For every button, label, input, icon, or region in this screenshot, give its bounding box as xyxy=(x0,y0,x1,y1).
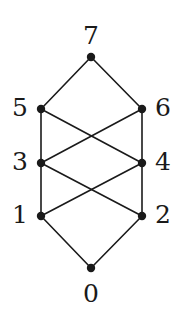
graph-node-5 xyxy=(37,105,45,113)
diagram-canvas: 01234567 xyxy=(0,0,181,314)
edge-layer xyxy=(41,57,142,268)
graph-node-label-5: 5 xyxy=(12,93,28,122)
graph-node-label-1: 1 xyxy=(12,200,28,229)
graph-node-4 xyxy=(138,159,146,167)
hasse-diagram-figure: 01234567 xyxy=(0,0,181,314)
graph-node-0 xyxy=(87,264,95,272)
graph-node-6 xyxy=(138,105,146,113)
graph-node-label-7: 7 xyxy=(83,21,99,50)
graph-node-label-0: 0 xyxy=(83,279,99,308)
graph-node-label-6: 6 xyxy=(155,93,171,122)
node-layer xyxy=(37,53,146,272)
graph-node-3 xyxy=(37,159,45,167)
graph-node-2 xyxy=(138,212,146,220)
graph-edge-5-7 xyxy=(41,57,91,109)
graph-node-label-4: 4 xyxy=(155,147,171,176)
graph-node-7 xyxy=(87,53,95,61)
graph-edge-6-7 xyxy=(91,57,142,109)
graph-node-label-3: 3 xyxy=(12,147,28,176)
graph-node-1 xyxy=(37,212,45,220)
graph-edge-0-2 xyxy=(91,216,142,268)
graph-edge-0-1 xyxy=(41,216,91,268)
graph-node-label-2: 2 xyxy=(155,200,171,229)
